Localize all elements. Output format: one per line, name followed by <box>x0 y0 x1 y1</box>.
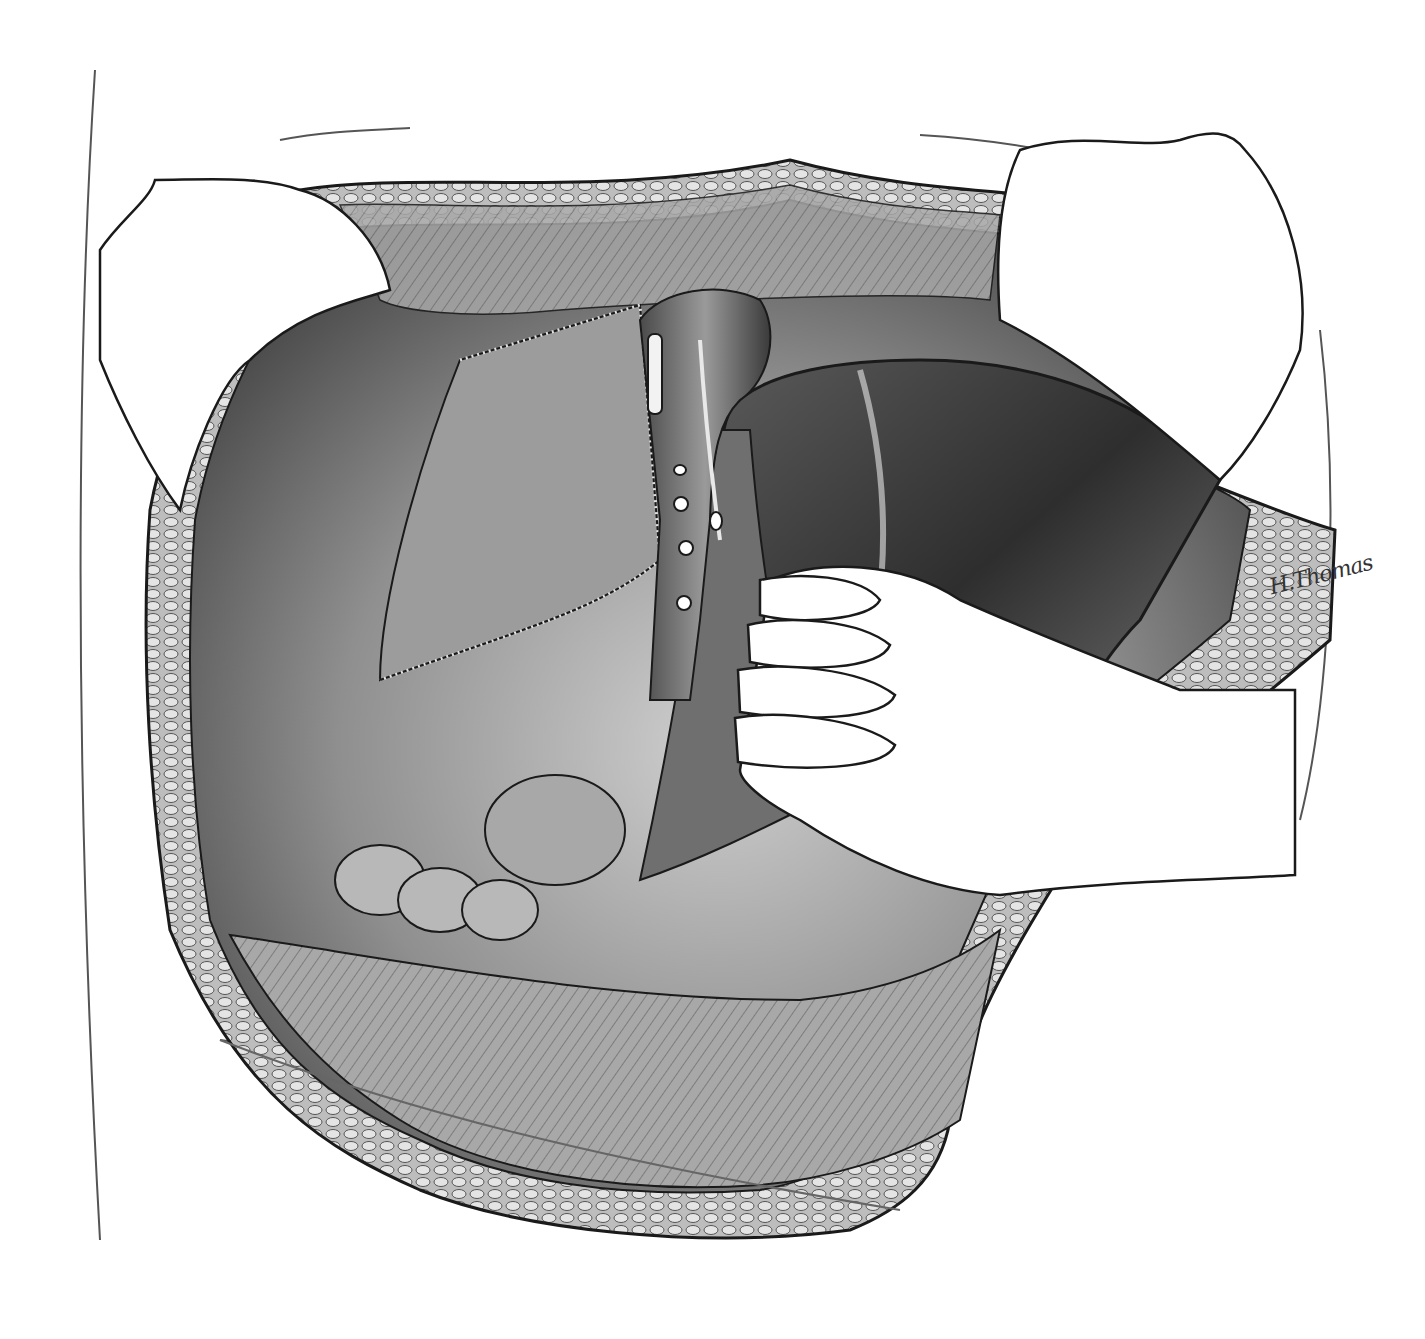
suture-marker <box>648 334 662 414</box>
surgical-illustration: H.Thomas <box>0 0 1425 1339</box>
illustration-svg <box>0 0 1425 1339</box>
